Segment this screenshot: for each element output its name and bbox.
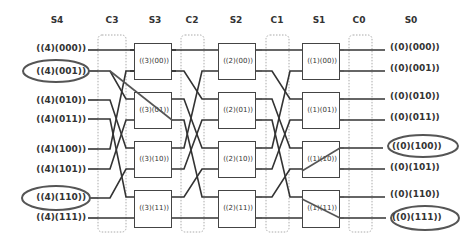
output-label-011: ((0)(011)) bbox=[390, 112, 440, 122]
switch-s1-10: ((1)(10)) bbox=[302, 141, 340, 178]
header-s0: S0 bbox=[405, 15, 418, 25]
switch-s1-00: ((1)(00)) bbox=[302, 43, 340, 80]
switch-label: ((2)(00)) bbox=[223, 57, 253, 65]
switch-label: ((1)(00)) bbox=[307, 57, 337, 65]
switch-label: ((1)(11)) bbox=[307, 204, 337, 212]
header-c1: C1 bbox=[271, 15, 284, 25]
output-label-110: ((0)(110)) bbox=[390, 189, 440, 199]
switch-s2-01: ((2)(01)) bbox=[218, 92, 256, 129]
switch-s2-00: ((2)(00)) bbox=[218, 43, 256, 80]
column-c0-box bbox=[349, 35, 372, 232]
switch-label: ((3)(10)) bbox=[139, 155, 169, 163]
input-label-100: ((4)(100)) bbox=[36, 144, 86, 154]
input-label-111: ((4)(111)) bbox=[36, 212, 86, 222]
switch-s2-10: ((2)(10)) bbox=[218, 141, 256, 178]
header-c2: C2 bbox=[186, 15, 199, 25]
switch-label: ((2)(10)) bbox=[223, 155, 253, 163]
header-s4: S4 bbox=[51, 15, 64, 25]
switch-label: ((2)(11)) bbox=[223, 204, 253, 212]
header-s3: S3 bbox=[149, 15, 162, 25]
output-label-101: ((0)(101)) bbox=[390, 162, 440, 172]
switch-label: ((3)(00)) bbox=[139, 57, 169, 65]
output-label-111: ((0)(111)) bbox=[392, 212, 442, 222]
header-c0: C0 bbox=[353, 15, 366, 25]
input-label-001: ((4)(001)) bbox=[36, 66, 86, 76]
input-label-011: ((4)(011)) bbox=[36, 114, 86, 124]
switch-s3-11: ((3)(11)) bbox=[134, 190, 172, 228]
switch-s3-10: ((3)(10)) bbox=[134, 141, 172, 178]
switch-s1-01: ((1)(01)) bbox=[302, 92, 340, 129]
header-c3: C3 bbox=[106, 15, 119, 25]
switch-label: ((1)(01)) bbox=[307, 106, 337, 114]
input-label-110: ((4)(110)) bbox=[36, 192, 86, 202]
switch-label: ((3)(11)) bbox=[139, 204, 169, 212]
output-label-100: ((0)(100)) bbox=[392, 141, 442, 151]
butterfly-network-diagram: S4 C3 S3 C2 S2 C1 S1 C0 S0 ((3)(00)) ((3… bbox=[0, 0, 473, 246]
switch-s3-00: ((3)(00)) bbox=[134, 43, 172, 80]
switch-s1-11: ((1)(11)) bbox=[302, 190, 340, 228]
header-s1: S1 bbox=[313, 15, 326, 25]
input-label-000: ((4)(000)) bbox=[36, 43, 86, 53]
switch-s2-11: ((2)(11)) bbox=[218, 190, 256, 228]
switch-label: ((1)(10)) bbox=[307, 155, 337, 163]
header-s2: S2 bbox=[230, 15, 243, 25]
output-label-000: ((0)(000)) bbox=[390, 42, 440, 52]
switch-s3-01: ((3)(01)) bbox=[134, 92, 172, 129]
switch-label: ((2)(01)) bbox=[223, 106, 253, 114]
output-label-001: ((0)(001)) bbox=[390, 63, 440, 73]
switch-label: ((3)(01)) bbox=[139, 106, 169, 114]
input-label-010: ((4)(010)) bbox=[36, 95, 86, 105]
column-c2-box bbox=[181, 35, 204, 232]
input-label-101: ((4)(101)) bbox=[36, 164, 86, 174]
output-label-010: ((0)(010)) bbox=[390, 91, 440, 101]
